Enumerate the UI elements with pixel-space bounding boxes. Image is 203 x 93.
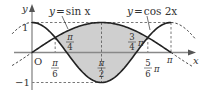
svg-text:π: π (51, 58, 58, 68)
cos2x-label-leader (147, 16, 150, 30)
svg-text:4: 4 (129, 42, 134, 52)
svg-text:π: π (98, 58, 105, 68)
y-axis-arrow-icon (29, 4, 35, 12)
svg-text:2: 2 (99, 69, 104, 79)
x-tick-5pi-over-6: 5 6 π (144, 58, 160, 79)
x-axis-label: x (193, 55, 199, 66)
x-tick-pi: π (166, 55, 173, 65)
y-tick-minus1: −1 (15, 77, 30, 88)
origin-label: O (34, 56, 42, 67)
svg-text:6: 6 (145, 69, 150, 79)
y-axis-label: y (21, 3, 28, 14)
function-graph: y=sin x y=cos 2x y x O 1 −1 π 6 π 2 5 6 … (0, 0, 203, 93)
sin-label-leader (62, 16, 68, 29)
svg-text:5: 5 (145, 58, 150, 68)
svg-text:6: 6 (52, 69, 57, 79)
x-tick-pi-over-6: π 6 (51, 58, 59, 79)
y-tick-1: 1 (22, 22, 28, 33)
sin-curve-label: y=sin x (48, 5, 91, 17)
svg-text:π: π (66, 32, 73, 42)
svg-text:3: 3 (129, 32, 134, 42)
cos2x-curve-label: y=cos 2x (126, 5, 177, 17)
svg-text:4: 4 (67, 42, 72, 52)
svg-text:π: π (153, 64, 160, 74)
svg-text:π: π (137, 38, 144, 48)
